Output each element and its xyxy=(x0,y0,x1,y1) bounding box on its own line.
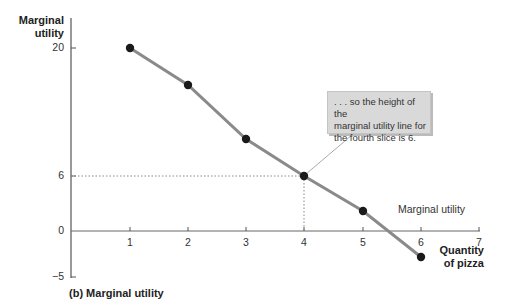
callout-line2: marginal utility line for xyxy=(334,120,426,132)
figure-caption: (b) Marginal utility xyxy=(69,287,164,299)
x-tick-label-5: 5 xyxy=(353,236,373,248)
x-axis-label-line1: Quantity xyxy=(439,244,484,257)
marginal-utility-line xyxy=(130,48,421,257)
series-label: Marginal utility xyxy=(398,203,465,215)
y-tick-label-20: 20 xyxy=(34,41,64,53)
y-axis-label: Marginal utility xyxy=(6,14,64,40)
x-tick-label-3: 3 xyxy=(236,236,256,248)
y-axis-label-line2: utility xyxy=(6,27,64,40)
x-tick-label-2: 2 xyxy=(178,236,198,248)
y-axis-label-line1: Marginal xyxy=(6,14,64,27)
data-markers xyxy=(126,44,425,261)
x-tick-label-4: 4 xyxy=(294,236,314,248)
x-tick-label-1: 1 xyxy=(120,236,140,248)
chart-plot-area xyxy=(0,0,506,306)
x-axis-label: Quantity of pizza xyxy=(439,244,484,270)
y-tick-label-neg5: −5 xyxy=(34,270,64,282)
callout-line3: the fourth slice is 6. xyxy=(334,132,426,144)
callout-line1: . . . so the height of the xyxy=(334,96,426,120)
x-axis-label-line2: of pizza xyxy=(439,257,484,270)
y-tick-label-6: 6 xyxy=(34,169,64,181)
y-tick-label-0: 0 xyxy=(34,224,64,236)
annotation-callout: . . . so the height of the marginal util… xyxy=(327,91,431,134)
x-tick-label-6: 6 xyxy=(411,236,431,248)
